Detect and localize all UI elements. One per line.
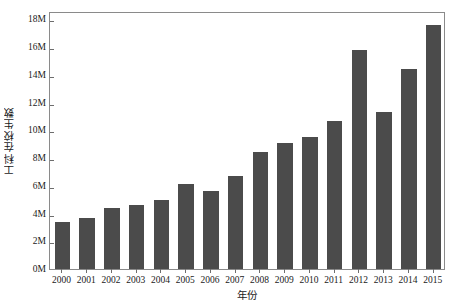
- y-tick-label: 6M: [16, 182, 46, 192]
- bar: [228, 176, 243, 269]
- bar: [376, 112, 391, 269]
- x-tick-label: 2009: [275, 274, 294, 286]
- x-tick-label: 2015: [423, 274, 442, 286]
- y-tick-mark: [50, 216, 54, 217]
- x-tick-label: 2012: [349, 274, 368, 286]
- x-tick-mark: [111, 269, 112, 273]
- y-tick-mark: [50, 188, 54, 189]
- bar: [302, 137, 317, 269]
- x-tick-mark: [160, 269, 161, 273]
- x-tick-label: 2007: [225, 274, 244, 286]
- x-tick-mark: [383, 269, 384, 273]
- y-tick-label: 10M: [16, 127, 46, 137]
- x-tick-mark: [408, 269, 409, 273]
- y-tick-label: 4M: [16, 210, 46, 220]
- y-tick-mark: [50, 49, 54, 50]
- y-tick-label: 18M: [16, 16, 46, 26]
- y-tick-label: 2M: [16, 238, 46, 248]
- x-tick-mark: [210, 269, 211, 273]
- plot-area: [49, 12, 445, 270]
- y-tick-label: 0M: [16, 265, 46, 275]
- x-tick-mark: [61, 269, 62, 273]
- x-tick-mark: [86, 269, 87, 273]
- x-axis-title: 年份: [49, 287, 445, 302]
- y-tick-label: 14M: [16, 71, 46, 81]
- x-tick-mark: [136, 269, 137, 273]
- y-tick-mark: [50, 243, 54, 244]
- x-tick-label: 2006: [200, 274, 219, 286]
- x-tick-label: 2008: [250, 274, 269, 286]
- y-tick-mark: [50, 132, 54, 133]
- x-tick-mark: [185, 269, 186, 273]
- bar: [178, 184, 193, 269]
- x-tick-mark: [309, 269, 310, 273]
- bar: [401, 69, 416, 269]
- x-tick-label: 2013: [374, 274, 393, 286]
- y-axis-title-text: 工科在校生数: [2, 106, 17, 175]
- x-tick-mark: [259, 269, 260, 273]
- x-tick-label: 2002: [101, 274, 120, 286]
- bar: [327, 121, 342, 269]
- x-tick-mark: [358, 269, 359, 273]
- x-tick-label: 2014: [398, 274, 417, 286]
- y-axis-tick-labels: 0M2M4M6M8M10M12M14M16M18M: [16, 0, 46, 305]
- y-tick-mark: [50, 77, 54, 78]
- bar: [129, 205, 144, 269]
- x-tick-mark: [433, 269, 434, 273]
- x-tick-mark: [334, 269, 335, 273]
- x-tick-label: 2010: [299, 274, 318, 286]
- bar: [352, 50, 367, 269]
- x-tick-label: 2001: [77, 274, 96, 286]
- bar: [253, 152, 268, 269]
- y-tick-label: 16M: [16, 43, 46, 53]
- x-tick-label: 2004: [151, 274, 170, 286]
- bar: [203, 191, 218, 269]
- x-tick-label: 2005: [176, 274, 195, 286]
- y-tick-mark: [50, 105, 54, 106]
- x-tick-label: 2003: [126, 274, 145, 286]
- y-tick-mark: [50, 21, 54, 22]
- x-tick-label: 2000: [52, 274, 71, 286]
- bar: [104, 208, 119, 269]
- y-tick-label: 12M: [16, 99, 46, 109]
- bar: [426, 25, 441, 269]
- bar: [277, 143, 292, 269]
- bar-chart: 工科在校生数 0M2M4M6M8M10M12M14M16M18M 2000200…: [0, 0, 455, 305]
- x-tick-mark: [284, 269, 285, 273]
- x-axis-tick-labels: 2000200120022003200420052006200720082009…: [49, 274, 445, 288]
- bar: [55, 222, 70, 269]
- bar: [79, 218, 94, 269]
- x-tick-mark: [235, 269, 236, 273]
- y-tick-label: 8M: [16, 154, 46, 164]
- bar: [154, 200, 169, 269]
- x-tick-label: 2011: [324, 274, 343, 286]
- y-tick-mark: [50, 160, 54, 161]
